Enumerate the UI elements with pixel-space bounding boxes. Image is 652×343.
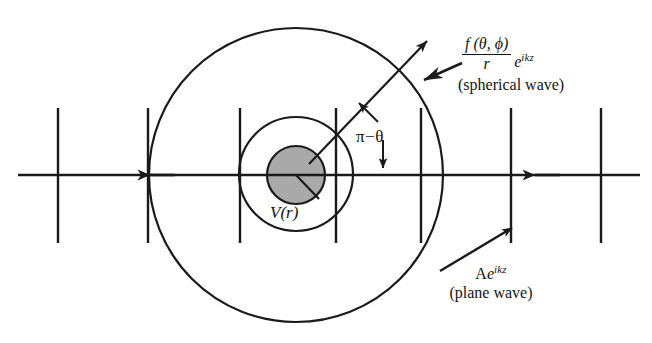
potential-label: V(r) (270, 204, 298, 221)
scattering-angle-label: π−θ (356, 128, 384, 145)
spherical-wave-caption: (spherical wave) (458, 77, 564, 93)
amplitude-fraction: f (θ, ϕ) r (462, 36, 511, 73)
fraction-numerator: f (θ, ϕ) (462, 36, 511, 54)
spherical-wave-leader-arrow (424, 63, 462, 80)
spherical-wave-expression: f (θ, ϕ) r eikz (462, 36, 564, 73)
plane-exp-superscript: ikz (494, 263, 507, 275)
plane-wave-caption: (plane wave) (426, 285, 556, 301)
spherical-exponential: eikz (514, 52, 534, 73)
plane-wave-amplitude: A (475, 265, 487, 282)
scattering-diagram-figure: V(r) π−θ f (θ, ϕ) r eikz (spherical wave… (0, 0, 652, 343)
plane-wave-label: Aeikz (plane wave) (426, 264, 556, 301)
fraction-denominator: r (484, 55, 490, 73)
spherical-exp-superscript: ikz (521, 51, 534, 63)
plane-exp-base: e (487, 265, 494, 282)
plane-wave-expression: Aeikz (426, 264, 556, 282)
angle-upper-indicator-arrow (359, 103, 378, 122)
spherical-wave-label: f (θ, ϕ) r eikz (spherical wave) (462, 36, 564, 93)
